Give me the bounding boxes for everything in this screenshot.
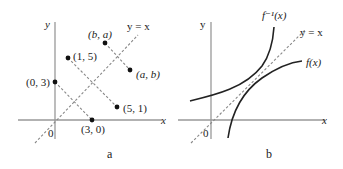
point-label-b-a: (b, a) (88, 28, 112, 41)
function-curve (228, 61, 302, 138)
segment-03-30 (55, 82, 92, 120)
function-label: f(x) (306, 56, 322, 69)
point-label-0-3: (0, 3) (26, 76, 50, 89)
point-label-3-0: (3, 0) (81, 123, 105, 136)
point-3-0 (90, 118, 95, 123)
x-axis-label: x (321, 114, 327, 126)
panel-a-caption: a (107, 147, 113, 161)
inverse-function-label: f⁻¹(x) (262, 9, 287, 22)
panel-a: y x 0 y = x (0, 3) (3, 0) (1, 5) (5, 1) … (18, 18, 166, 161)
point-5-1 (115, 105, 120, 110)
inverse-function-curve (190, 27, 274, 101)
x-axis-label: x (160, 114, 166, 126)
origin-label: 0 (203, 127, 209, 139)
point-a-b (128, 68, 133, 73)
figure: y x 0 y = x (0, 3) (3, 0) (1, 5) (5, 1) … (0, 0, 343, 169)
point-1-5 (66, 56, 71, 61)
point-label-a-b: (a, b) (136, 68, 160, 81)
panel-b: y x 0 y = x f⁻¹(x) f(x) b (178, 9, 327, 161)
point-label-1-5: (1, 5) (73, 50, 97, 63)
origin-label: 0 (48, 127, 54, 139)
point-0-3 (53, 80, 58, 85)
panel-b-caption: b (266, 147, 272, 161)
y-axis-label: y (44, 18, 50, 30)
identity-line-label: y = x (300, 26, 323, 38)
identity-line-label: y = x (127, 20, 150, 32)
y-axis-label: y (200, 18, 206, 30)
point-b-a (103, 41, 108, 46)
point-label-5-1: (5, 1) (123, 102, 147, 115)
